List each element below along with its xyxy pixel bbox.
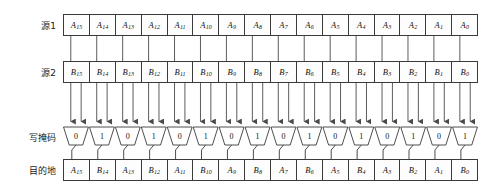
cell-base: B bbox=[357, 166, 362, 175]
cell-base: B bbox=[97, 166, 102, 175]
destination-bit-cell: A13 bbox=[115, 159, 141, 181]
write-mask-bit-value: 0 bbox=[385, 133, 389, 141]
destination-bit-cell: B12 bbox=[141, 159, 167, 181]
cell-subscript: 15 bbox=[76, 169, 82, 175]
destination-register-row: A15B14A13B12A11B10A9B8A7B6A5B4A3B2A1B0 bbox=[63, 159, 478, 181]
write-mask-bit-value: 0 bbox=[126, 133, 130, 141]
destination-bit-cell: A5 bbox=[322, 159, 348, 181]
cell-subscript: 6 bbox=[311, 169, 314, 175]
cell-subscript: 8 bbox=[259, 169, 262, 175]
write-mask-bit-value: 1 bbox=[100, 133, 104, 141]
cell-subscript: 0 bbox=[466, 169, 469, 175]
cell-subscript: 4 bbox=[362, 169, 365, 175]
cell-base: A bbox=[279, 166, 284, 175]
write-mask-mux[interactable]: 1 bbox=[245, 127, 271, 147]
write-mask-bit-value: 0 bbox=[74, 133, 78, 141]
cell-subscript: 13 bbox=[128, 169, 134, 175]
write-mask-bit-value: 1 bbox=[307, 133, 311, 141]
cell-base: A bbox=[71, 166, 76, 175]
destination-bit-cell: B6 bbox=[296, 159, 322, 181]
write-mask-mux[interactable]: 1 bbox=[89, 127, 115, 147]
destination-bit-cell: A9 bbox=[218, 159, 244, 181]
cell-subscript: 11 bbox=[180, 169, 186, 175]
write-mask-mux[interactable]: 0 bbox=[374, 127, 400, 147]
cell-subscript: 10 bbox=[206, 169, 212, 175]
write-mask-bit-value: 1 bbox=[256, 133, 260, 141]
write-mask-mux[interactable]: 1 bbox=[296, 127, 322, 147]
destination-bit-cell: B14 bbox=[89, 159, 115, 181]
cell-base: B bbox=[253, 166, 258, 175]
cell-subscript: 9 bbox=[233, 169, 236, 175]
cell-subscript: 12 bbox=[154, 169, 160, 175]
cell-base: B bbox=[409, 166, 414, 175]
write-mask-mux[interactable]: 1 bbox=[452, 127, 478, 147]
cell-base: A bbox=[123, 166, 128, 175]
write-mask-mux[interactable]: 0 bbox=[115, 127, 141, 147]
write-mask-bit-value: 0 bbox=[230, 133, 234, 141]
cell-base: A bbox=[175, 166, 180, 175]
cell-base: B bbox=[148, 166, 153, 175]
write-mask-mux[interactable]: 0 bbox=[167, 127, 193, 147]
destination-bit-cell: B10 bbox=[192, 159, 218, 181]
destination-bit-cell: B2 bbox=[399, 159, 425, 181]
write-mask-mux[interactable]: 1 bbox=[348, 127, 374, 147]
write-mask-bit-value: 0 bbox=[437, 133, 441, 141]
destination-bit-cell: B4 bbox=[348, 159, 374, 181]
cell-subscript: 1 bbox=[440, 169, 443, 175]
cell-base: B bbox=[305, 166, 310, 175]
cell-subscript: 5 bbox=[337, 169, 340, 175]
write-mask-multiplexer-diagram: 源1 源2 写掩码 目的地 A15A14A13A12A11A10A9A8A7A6… bbox=[0, 0, 487, 196]
write-mask-bit-value: 0 bbox=[281, 133, 285, 141]
cell-base: B bbox=[200, 166, 205, 175]
cell-base: B bbox=[460, 166, 465, 175]
destination-bit-cell: B8 bbox=[244, 159, 270, 181]
destination-bit-cell: A11 bbox=[167, 159, 193, 181]
destination-bit-cell: A1 bbox=[425, 159, 451, 181]
write-mask-bit-value: 0 bbox=[333, 133, 337, 141]
write-mask-mux[interactable]: 1 bbox=[141, 127, 167, 147]
write-mask-bit-value: 0 bbox=[178, 133, 182, 141]
cell-subscript: 14 bbox=[102, 169, 108, 175]
write-mask-bit-value: 1 bbox=[152, 133, 156, 141]
write-mask-mux[interactable]: 0 bbox=[426, 127, 452, 147]
destination-bit-cell: A3 bbox=[374, 159, 400, 181]
write-mask-bit-value: 1 bbox=[204, 133, 208, 141]
write-mask-mux[interactable]: 1 bbox=[193, 127, 219, 147]
write-mask-mux[interactable]: 0 bbox=[219, 127, 245, 147]
cell-subscript: 7 bbox=[285, 169, 288, 175]
cell-subscript: 2 bbox=[414, 169, 417, 175]
cell-base: A bbox=[331, 166, 336, 175]
cell-base: A bbox=[228, 166, 233, 175]
write-mask-mux[interactable]: 1 bbox=[400, 127, 426, 147]
write-mask-bit-value: 1 bbox=[411, 133, 415, 141]
write-mask-bit-value: 1 bbox=[463, 133, 467, 141]
write-mask-mux[interactable]: 0 bbox=[271, 127, 297, 147]
destination-bit-cell: A15 bbox=[63, 159, 89, 181]
destination-bit-cell: B0 bbox=[451, 159, 478, 181]
destination-bit-cell: A7 bbox=[270, 159, 296, 181]
cell-subscript: 3 bbox=[388, 169, 391, 175]
cell-base: A bbox=[435, 166, 440, 175]
write-mask-mux[interactable]: 0 bbox=[63, 127, 89, 147]
write-mask-mux-row: 0101010101010101 bbox=[63, 127, 478, 147]
write-mask-bit-value: 1 bbox=[359, 133, 363, 141]
write-mask-mux[interactable]: 0 bbox=[322, 127, 348, 147]
